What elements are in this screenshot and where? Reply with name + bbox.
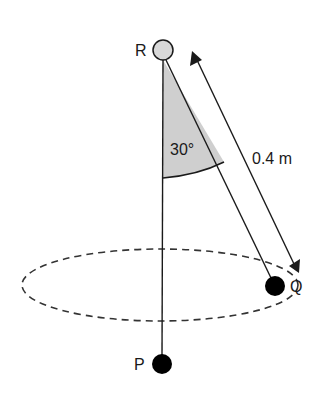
vertical-string (162, 60, 163, 356)
label-p: P (134, 356, 145, 373)
label-length: 0.4 m (252, 150, 292, 167)
arrowhead-bottom-icon (289, 259, 300, 273)
label-angle: 30° (170, 141, 194, 158)
conical-pendulum-diagram: R P Q 30° 0.4 m (0, 0, 330, 398)
label-q: Q (290, 278, 302, 295)
label-r: R (135, 42, 147, 59)
bob-p (152, 354, 172, 374)
arrowhead-top-icon (190, 51, 202, 66)
pivot-circle (153, 40, 173, 60)
circular-path (22, 249, 298, 321)
bob-q (265, 276, 285, 296)
